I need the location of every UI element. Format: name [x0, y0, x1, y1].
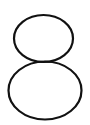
eight-outline-icon: [0, 0, 90, 125]
digit-eight-glyph: 8: [0, 0, 90, 125]
